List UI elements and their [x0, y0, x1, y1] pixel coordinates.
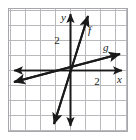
coordinate-plane-figure: y x 2 2 f g [0, 0, 136, 140]
y-axis-tick-label-2: 2 [54, 34, 60, 46]
x-axis-tick-label-2: 2 [94, 75, 100, 87]
y-axis-label: y [60, 11, 66, 23]
x-axis-label: x [116, 73, 122, 85]
line-g-label: g [103, 41, 109, 53]
graph-canvas: y x 2 2 f g [0, 0, 136, 140]
